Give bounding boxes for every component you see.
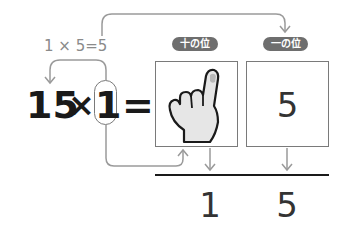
ones-place-label: 一の位 [263,37,308,51]
ones-place-box: 5 [246,61,329,147]
result-tens-digit: 1 [190,188,230,222]
multiplier: 1 [95,86,117,124]
times-sign: × [68,89,95,121]
result-ones-digit: 5 [267,188,307,222]
equals-sign: = [122,86,154,124]
ones-digit: 5 [247,88,328,122]
partial-product-label: 1 × 5=5 [44,37,107,55]
tens-place-label: 十の位 [172,37,218,51]
tens-place-box [155,61,238,147]
hand-pointing-one-icon [156,62,236,145]
